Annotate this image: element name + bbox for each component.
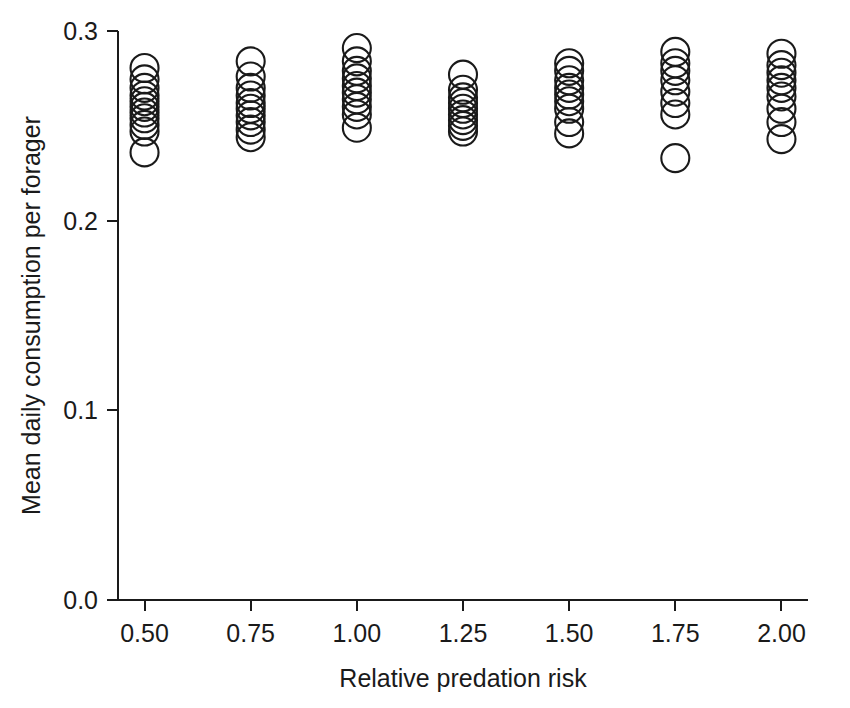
data-point-marker <box>661 144 689 172</box>
x-tick-label: 1.00 <box>333 619 382 647</box>
x-tick-label: 0.75 <box>226 619 275 647</box>
data-point-marker <box>555 119 583 147</box>
x-tick-label: 2.00 <box>757 619 806 647</box>
x-axis-title: Relative predation risk <box>339 664 587 692</box>
data-point-layer <box>131 34 796 172</box>
x-tick-label: 1.50 <box>545 619 594 647</box>
y-tick-label: 0.3 <box>63 17 98 45</box>
scatter-plot-figure: 0.00.10.20.3 0.500.751.001.251.501.752.0… <box>0 0 850 708</box>
data-point-marker <box>237 123 265 151</box>
data-point-marker <box>343 114 371 142</box>
y-tick-label: 0.2 <box>63 207 98 235</box>
x-tick-label: 0.50 <box>120 619 169 647</box>
plot-canvas: 0.00.10.20.3 0.500.751.001.251.501.752.0… <box>0 0 850 708</box>
data-point-marker <box>131 138 159 166</box>
x-axis-ticks: 0.500.751.001.251.501.752.00 <box>120 600 806 647</box>
data-point-marker <box>661 100 689 128</box>
y-axis-ticks: 0.00.10.20.3 <box>63 17 118 614</box>
y-axis-title: Mean daily consumption per forager <box>17 116 45 515</box>
data-point-marker <box>449 118 477 146</box>
y-tick-label: 0.0 <box>63 586 98 614</box>
x-tick-label: 1.75 <box>651 619 700 647</box>
y-tick-label: 0.1 <box>63 396 98 424</box>
data-point-marker <box>767 125 795 153</box>
x-tick-label: 1.25 <box>439 619 488 647</box>
